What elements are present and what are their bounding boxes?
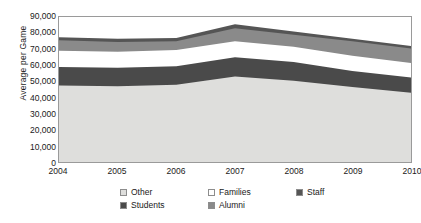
x-tick-label: 2004 — [49, 166, 68, 176]
legend-swatch-icon — [120, 202, 127, 209]
y-tick-label: 60,000 — [14, 61, 56, 70]
legend-item-alumni[interactable]: Alumni — [208, 201, 296, 210]
area-series-svg — [59, 17, 411, 162]
legend-swatch-icon — [208, 202, 215, 209]
x-axis-tick-labels: 2004200520062007200820092010 — [58, 166, 412, 180]
legend-label: Families — [219, 188, 251, 197]
y-tick-label: 80,000 — [14, 28, 56, 37]
legend-label: Alumni — [219, 201, 245, 210]
stacked-area-chart: Average per Game 010,00020,00030,00040,0… — [0, 0, 421, 223]
x-tick-label: 2008 — [285, 166, 304, 176]
y-tick-label: 10,000 — [14, 143, 56, 152]
legend-swatch-icon — [208, 189, 215, 196]
legend-item-other[interactable]: Other — [120, 188, 208, 197]
x-tick-label: 2007 — [226, 166, 245, 176]
y-tick-label: 70,000 — [14, 45, 56, 54]
legend-label: Students — [131, 201, 165, 210]
legend-swatch-icon — [296, 189, 303, 196]
y-tick-label: 30,000 — [14, 110, 56, 119]
x-tick-label: 2010 — [403, 166, 421, 176]
legend-label: Staff — [307, 188, 324, 197]
y-tick-label: 90,000 — [14, 12, 56, 21]
y-tick-label: 20,000 — [14, 126, 56, 135]
legend-item-students[interactable]: Students — [120, 201, 208, 210]
y-axis-tick-labels: 010,00020,00030,00040,00050,00060,00070,… — [14, 0, 56, 168]
x-tick-label: 2005 — [108, 166, 127, 176]
legend-item-families[interactable]: Families — [208, 188, 296, 197]
y-tick-label: 40,000 — [14, 94, 56, 103]
y-tick-label: 50,000 — [14, 77, 56, 86]
legend-label: Other — [131, 188, 152, 197]
legend-swatch-icon — [120, 189, 127, 196]
area-band-other — [59, 77, 411, 162]
x-tick-label: 2006 — [167, 166, 186, 176]
chart-legend: OtherFamiliesStaffStudentsAlumni — [120, 186, 360, 212]
x-tick-label: 2009 — [344, 166, 363, 176]
plot-area — [58, 16, 412, 163]
legend-item-staff[interactable]: Staff — [296, 188, 360, 197]
